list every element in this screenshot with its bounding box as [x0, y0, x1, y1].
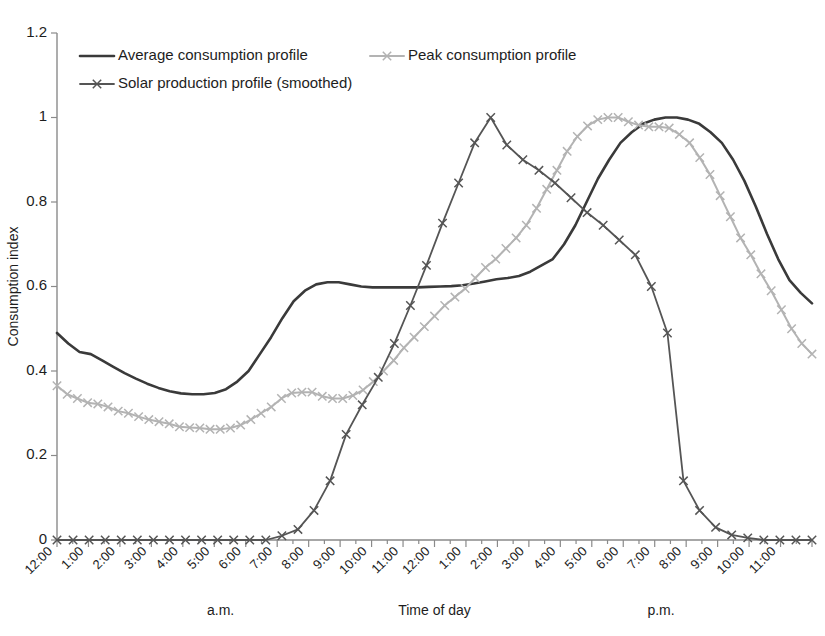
x-axis-tick-label: 8:00 [656, 544, 685, 573]
data-point-marker [615, 236, 623, 244]
data-point-marker [374, 373, 382, 381]
legend-label-average: Average consumption profile [118, 46, 308, 63]
x-axis-tick-label: 1:00 [436, 544, 465, 573]
data-point-marker [454, 179, 462, 187]
data-point-marker [257, 409, 265, 417]
data-point-marker [451, 293, 459, 301]
y-axis-tick-label: 1.2 [26, 23, 47, 40]
data-point-marker [492, 255, 500, 263]
data-point-marker [777, 306, 785, 314]
y-axis-tick-label: 0.6 [26, 276, 47, 293]
x-axis-tick-label: 12:00 [399, 544, 433, 578]
y-axis-tick-label: 0.2 [26, 445, 47, 462]
data-point-marker [567, 194, 575, 202]
data-point-marker [631, 251, 639, 259]
data-point-marker [358, 401, 366, 409]
period-label-am: a.m. [207, 602, 234, 618]
data-point-marker [420, 322, 428, 330]
x-axis-tick-label: 3:00 [498, 544, 527, 573]
data-point-marker [73, 394, 81, 402]
x-axis-tick-label: 7:00 [247, 544, 276, 573]
data-point-marker [787, 325, 795, 333]
x-axis-tick-label: 3:00 [121, 544, 150, 573]
legend-label-peak: Peak consumption profile [408, 46, 576, 63]
y-axis-tick-label: 0.4 [26, 361, 47, 378]
data-point-marker [551, 179, 559, 187]
x-axis-tick-label: 2:00 [467, 544, 496, 573]
data-point-marker [410, 333, 418, 341]
x-axis-tick-label: 4:00 [152, 544, 181, 573]
x-axis-tick-label: 11:00 [368, 544, 401, 577]
data-point-marker [277, 394, 285, 402]
data-point-marker [767, 287, 775, 295]
data-point-marker [406, 301, 414, 309]
data-point-marker [267, 403, 275, 411]
data-point-marker [310, 506, 318, 514]
y-axis-tick-label: 0.8 [26, 192, 47, 209]
data-point-marker [736, 234, 744, 242]
data-point-marker [583, 122, 591, 130]
x-axis-tick-label: 9:00 [687, 544, 716, 573]
data-point-marker [675, 130, 683, 138]
data-point-marker [532, 204, 540, 212]
data-point-marker [400, 344, 408, 352]
data-point-marker [470, 139, 478, 147]
data-point-marker [706, 170, 714, 178]
x-axis-tick-label: 5:00 [561, 544, 590, 573]
data-point-marker [716, 191, 724, 199]
period-label-pm: p.m. [647, 602, 674, 618]
data-point-marker [711, 523, 719, 531]
data-point-marker [63, 390, 71, 398]
x-axis-tick-label: 10:00 [714, 544, 748, 578]
data-point-marker [573, 132, 581, 140]
data-point-marker [430, 312, 438, 320]
data-point-marker [342, 430, 350, 438]
x-axis-tick-label: 9:00 [310, 544, 339, 573]
data-point-marker [389, 356, 397, 364]
x-axis-tick-label: 12:00 [22, 544, 56, 578]
series-line-2 [57, 118, 812, 430]
data-point-marker [522, 221, 530, 229]
data-point-marker [563, 147, 571, 155]
x-axis-tick-label: 2:00 [90, 544, 119, 573]
y-axis-title: Consumption index [5, 227, 21, 347]
x-axis-tick-label: 4:00 [530, 544, 559, 573]
y-axis-tick-label: 1 [39, 107, 47, 124]
data-point-marker [599, 221, 607, 229]
x-axis-tick-label: 5:00 [184, 544, 213, 573]
data-point-marker [696, 153, 704, 161]
x-axis-tick-label: 1:00 [58, 544, 87, 573]
data-point-marker [519, 156, 527, 164]
data-point-marker [422, 261, 430, 269]
data-point-marker [359, 386, 367, 394]
data-point-marker [726, 213, 734, 221]
data-point-marker [512, 234, 520, 242]
data-point-marker [487, 113, 495, 121]
x-axis-tick-label: 10:00 [336, 544, 370, 578]
data-point-marker [471, 274, 479, 282]
data-point-marker [647, 282, 655, 290]
data-point-marker [747, 251, 755, 259]
x-axis-title: Time of day [398, 602, 471, 618]
data-point-marker [808, 350, 816, 358]
data-point-marker [247, 415, 255, 423]
data-point-marker [326, 477, 334, 485]
data-point-marker [553, 166, 561, 174]
data-point-marker [502, 244, 510, 252]
series-line-3 [57, 118, 812, 541]
data-point-marker [438, 219, 446, 227]
legend-label-solar: Solar production profile (smoothed) [118, 74, 352, 91]
chart-container: 00.20.40.60.811.212:001:002:003:004:005:… [0, 0, 825, 636]
data-point-marker [695, 506, 703, 514]
x-axis-tick-label: 6:00 [215, 544, 244, 573]
data-point-marker [535, 166, 543, 174]
data-point-marker [481, 263, 489, 271]
data-point-marker [390, 339, 398, 347]
data-point-marker [441, 301, 449, 309]
x-axis-tick-label: 8:00 [278, 544, 307, 573]
data-point-marker [503, 141, 511, 149]
x-axis-tick-label: 7:00 [624, 544, 653, 573]
x-axis-tick-label: 6:00 [593, 544, 622, 573]
data-point-marker [798, 339, 806, 347]
data-point-marker [583, 208, 591, 216]
